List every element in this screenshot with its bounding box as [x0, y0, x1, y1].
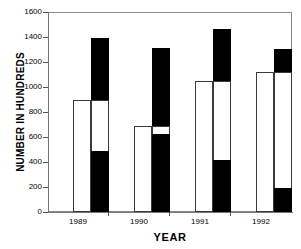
y-tick-1400: [43, 37, 48, 38]
x-tick-1: [169, 212, 170, 216]
x-tick-0: [108, 212, 109, 216]
y-tick-1200: [43, 62, 48, 63]
x-tick-label-1991: 1991: [175, 217, 225, 226]
bar-notch-1989: [91, 100, 109, 151]
x-tick-label-1992: 1992: [236, 217, 286, 226]
y-axis-title: NUMBER IN HUNDREDS: [14, 12, 28, 212]
x-axis-title: YEAR: [48, 231, 292, 243]
bar-white-1992: [256, 72, 274, 212]
bar-notch-1992: [274, 72, 292, 188]
bar-white-1991: [195, 81, 213, 212]
x-tick-2: [230, 212, 231, 216]
bar-white-1989: [73, 100, 91, 213]
bar-notch-1991: [213, 81, 231, 160]
bar-chart: 0 200 400 600 800 1000 1200 1400 1600 NU…: [0, 0, 301, 249]
y-tick-800: [43, 112, 48, 113]
bar-notch-1990: [152, 126, 170, 134]
y-tick-1600: [43, 12, 48, 13]
y-axis-line: [48, 12, 49, 213]
y-tick-0: [43, 212, 48, 213]
x-tick-label-1990: 1990: [114, 217, 164, 226]
y-tick-400: [43, 162, 48, 163]
x-axis-line: [48, 212, 293, 213]
y-tick-1000: [43, 87, 48, 88]
x-tick-label-1989: 1989: [53, 217, 103, 226]
y-tick-200: [43, 187, 48, 188]
bar-white-1990: [134, 126, 152, 212]
y-tick-600: [43, 137, 48, 138]
